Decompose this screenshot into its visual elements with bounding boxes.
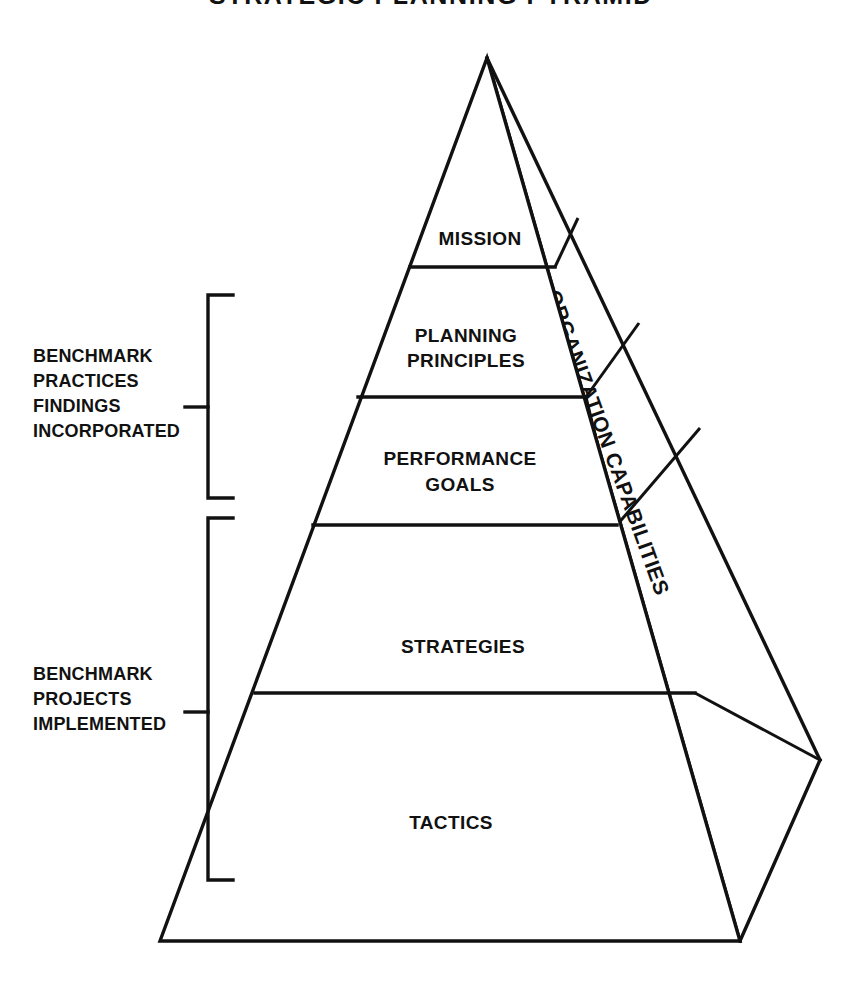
bracket-upper-group: BENCHMARK PRACTICES FINDINGS INCORPORATE… (33, 295, 233, 498)
bracket-upper-label-line-3: FINDINGS (33, 396, 121, 416)
tier-tactics-label-line-1: TACTICS (409, 812, 493, 833)
tier-tactics[interactable]: TACTICS (409, 812, 493, 833)
tier-mission-label-line-1: MISSION (438, 228, 521, 249)
bracket-upper (208, 295, 233, 498)
bracket-upper-label-line-2: PRACTICES (33, 371, 139, 391)
pyramid-canvas: ORGANIZATION CAPABILITIES MISSION PLANNI… (0, 0, 863, 1001)
tier-goals-label-line-1: PERFORMANCE (383, 448, 536, 469)
tier-strategies-label-line-1: STRATEGIES (401, 636, 525, 657)
tier-strategies[interactable]: STRATEGIES (401, 636, 525, 657)
tier-principles-label-line-2: PRINCIPLES (407, 350, 525, 371)
pyramid-diagram: STRATEGIC PLANNING PYRAMID ORGANIZATION … (0, 0, 863, 1001)
page-title-clipped-region: STRATEGIC PLANNING PYRAMID (0, 0, 863, 9)
page-title: STRATEGIC PLANNING PYRAMID (209, 0, 653, 9)
tier-mission[interactable]: MISSION (438, 228, 521, 249)
bracket-upper-label-line-4: INCORPORATED (33, 421, 180, 441)
tier-principles-label-line-1: PLANNING (415, 325, 517, 346)
bracket-lower-label-line-3: IMPLEMENTED (33, 714, 166, 734)
tier-goals-label-line-2: GOALS (425, 474, 495, 495)
bracket-lower-label-line-1: BENCHMARK (33, 664, 153, 684)
bracket-lower-label-line-2: PROJECTS (33, 689, 132, 709)
bracket-upper-label-line-1: BENCHMARK (33, 346, 153, 366)
